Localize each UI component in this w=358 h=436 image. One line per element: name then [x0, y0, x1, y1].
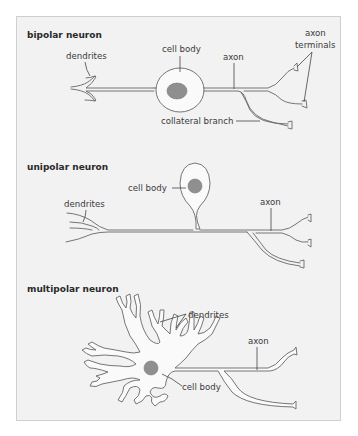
unipolar-neuron-figure: [66, 163, 311, 268]
bipolar-axon-label: axon: [223, 52, 244, 62]
bipolar-axon-terminals-label-line1: axon: [305, 28, 326, 38]
bipolar-nucleus: [167, 83, 187, 99]
bipolar-neuron-panel: bipolar neuron dendrites cell body: [27, 28, 336, 129]
unipolar-cell-body: [180, 163, 210, 229]
neuron-types-diagram: bipolar neuron dendrites cell body: [0, 0, 358, 436]
unipolar-neuron-title: unipolar neuron: [27, 162, 108, 172]
multipolar-neuron-title: multipolar neuron: [27, 284, 119, 294]
multipolar-cell-body-label: cell body: [182, 382, 221, 392]
unipolar-nucleus: [188, 179, 202, 193]
unipolar-cell-body-label: cell body: [128, 183, 167, 193]
multipolar-dendrites-label: dendrites: [188, 310, 229, 320]
unipolar-dendrites-label: dendrites: [64, 199, 105, 209]
bipolar-dendrites-label: dendrites: [66, 51, 107, 61]
bipolar-collateral-branch-label: collateral branch: [161, 116, 233, 126]
bipolar-axon-terminals-label-line2: terminals: [295, 40, 336, 50]
bipolar-cell-body-label: cell body: [162, 44, 201, 54]
unipolar-neuron-panel: unipolar neuron dendrites cell body axon: [27, 162, 311, 268]
bipolar-neuron-title: bipolar neuron: [27, 30, 102, 40]
multipolar-axon-label: axon: [248, 336, 269, 346]
multipolar-nucleus: [144, 361, 158, 375]
multipolar-neuron-panel: multipolar neuron dendrites axon cell bo…: [27, 284, 297, 409]
unipolar-axon-label: axon: [260, 197, 281, 207]
